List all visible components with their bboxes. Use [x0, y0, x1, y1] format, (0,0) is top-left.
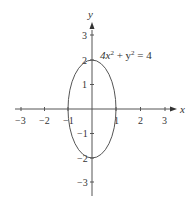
y-axis-label: y [87, 8, 93, 20]
y-tick-label: −3 [77, 177, 88, 188]
x-tick-label: 3 [162, 115, 167, 126]
equation-label: 4x2 + y2 = 4 [100, 49, 152, 61]
y-tick-label: 2 [82, 55, 87, 66]
x-axis-arrow-icon [170, 107, 177, 112]
y-tick-label: 1 [82, 79, 87, 90]
x-tick-label: 2 [138, 115, 143, 126]
y-tick-label: 3 [82, 30, 87, 41]
x-axis-label: x [179, 103, 185, 115]
y-axis-arrow-icon [90, 22, 95, 29]
y-tick-label: −1 [77, 128, 88, 139]
x-tick-label: −2 [39, 115, 50, 126]
x-tick-label: −3 [15, 115, 26, 126]
ellipse-graph: x y −3 −2 −1 1 2 3 3 2 1 −1 −2 −3 4x2 + … [0, 0, 192, 202]
